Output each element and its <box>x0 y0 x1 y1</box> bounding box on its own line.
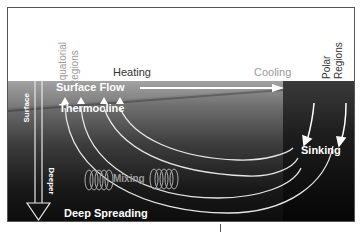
sinking-label: Sinking <box>301 144 341 156</box>
heating-label: Heating <box>113 66 151 78</box>
equatorial-label-line2: Regions <box>69 21 81 87</box>
polar-label-line1: Polar <box>321 25 333 79</box>
equatorial-label-line1: Equatorial <box>57 21 69 87</box>
polar-label-line2: Regions <box>333 25 345 79</box>
deeper-label-text: Deeper <box>47 168 56 202</box>
thermocline-label: Thermocline <box>59 102 124 114</box>
polar-regions-label: Polar Regions <box>318 16 355 76</box>
mixing-label: Mixing <box>113 173 145 184</box>
surface-label: Surface <box>20 86 32 126</box>
surface-label-text: Surface <box>22 87 31 123</box>
cooling-label: Cooling <box>254 66 291 78</box>
bottom-tick-mark <box>220 224 221 232</box>
circulation-loops-icon <box>65 108 333 213</box>
equatorial-regions-label: Equatorial Regions <box>50 16 88 76</box>
diagram-frame: Equatorial Regions Polar Regions Heating… <box>7 7 355 222</box>
deep-spreading-label: Deep Spreading <box>64 207 148 219</box>
deeper-label: Deeper <box>44 168 56 204</box>
surface-flow-label: Surface Flow <box>56 81 124 93</box>
sinking-arrows-icon <box>303 103 346 146</box>
